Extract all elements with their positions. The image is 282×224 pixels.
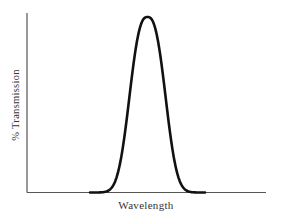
x-axis-label: Wavelength [118, 199, 173, 211]
transmission-chart: % Transmission Wavelength [0, 0, 282, 224]
transmission-curve [90, 17, 205, 193]
chart-plot [0, 0, 282, 224]
y-axis-label: % Transmission [10, 69, 21, 141]
